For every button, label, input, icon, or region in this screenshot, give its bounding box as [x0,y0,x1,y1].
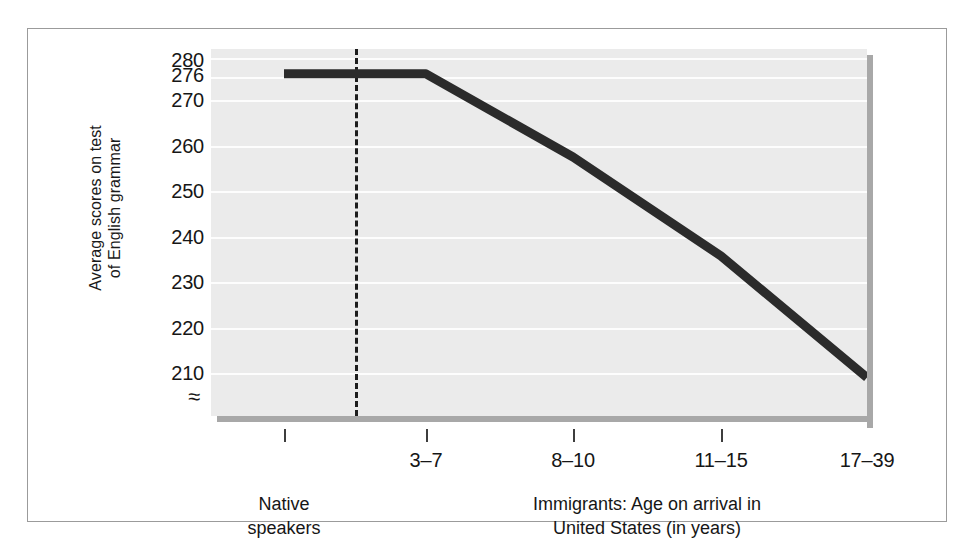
x-tickmark-11-15 [721,429,723,442]
x-tickmark-8-10 [573,429,575,442]
y-tick-250: 250 [140,181,204,201]
y-tick-240: 240 [140,227,204,247]
x-tick-label-8-10: 8–10 [503,449,643,472]
x-tick-label-11-15: 11–15 [651,449,791,472]
y-tick-276: 276 [140,65,204,85]
y-tick-260: 260 [140,136,204,156]
x-axis-title: Immigrants: Age on arrival in United Sta… [437,492,857,541]
plot-shadow-bottom [217,416,873,422]
plot-area-wrapper: 3–7 8–10 11–15 17–39 Native speakers Imm… [211,49,873,422]
native-speakers-caption: Native speakers [194,492,374,541]
y-axis-tick-labels: 280 276 270 260 250 240 230 220 210 ≈ [136,29,204,495]
y-axis-break-icon: ≈ [188,386,200,408]
x-tickmark-3-7 [426,429,428,442]
data-series-line [211,49,867,416]
y-tick-270: 270 [140,90,204,110]
x-tick-label-17-39: 17–39 [797,449,937,472]
chart-figure-frame: Average scores on test of English gramma… [27,28,947,522]
y-tick-230: 230 [140,272,204,292]
y-axis-title: Average scores on test of English gramma… [87,68,125,348]
plot-area [211,49,867,416]
y-tick-220: 220 [140,318,204,338]
y-tick-210: 210 [140,363,204,383]
x-tick-label-3-7: 3–7 [356,449,496,472]
x-tickmark-native [284,429,286,442]
plot-shadow-right [867,55,873,428]
